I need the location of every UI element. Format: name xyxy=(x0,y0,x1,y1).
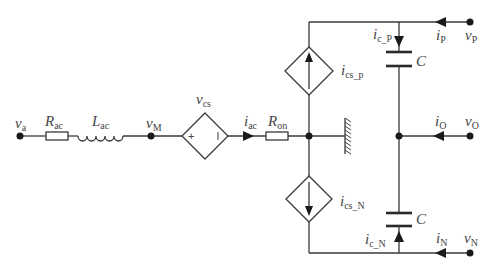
node-vm xyxy=(148,133,155,140)
current-arrow-ip xyxy=(435,17,446,27)
ground-hatch-icon xyxy=(345,118,351,154)
current-arrow-iac xyxy=(243,131,254,141)
current-arrow-icp xyxy=(394,36,404,47)
label-vn: vN xyxy=(464,230,478,248)
node-vp xyxy=(467,19,474,26)
node-va xyxy=(17,133,24,140)
label-in: iN xyxy=(436,230,447,248)
plus-sign: + xyxy=(188,130,194,142)
label-c-top: C xyxy=(416,53,427,69)
schematic-canvas: + va xyxy=(0,0,494,269)
label-ics-p: ics_p xyxy=(341,62,364,80)
label-ron: Ron xyxy=(267,113,287,131)
label-vm: vM xyxy=(146,115,162,133)
node-center xyxy=(306,133,313,140)
label-ics-n: ics_N xyxy=(340,193,365,211)
current-arrow-icn xyxy=(394,231,404,242)
label-vcs: vcs xyxy=(196,91,211,109)
label-vp: vP xyxy=(465,27,478,45)
label-vo: vO xyxy=(465,113,479,131)
resistor-rac xyxy=(46,132,68,140)
label-iac: iac xyxy=(244,113,258,131)
resistor-ron xyxy=(266,132,288,140)
current-arrow-io xyxy=(433,131,444,141)
label-c-bottom: C xyxy=(416,211,427,227)
current-arrow-in xyxy=(435,248,446,258)
label-va: va xyxy=(15,115,27,133)
node-vo xyxy=(467,133,474,140)
label-rac: Rac xyxy=(44,113,64,131)
label-lac: Lac xyxy=(91,113,110,131)
node-vn xyxy=(467,250,474,257)
label-icp: ic_P xyxy=(373,26,393,44)
circuit-diagram: + va xyxy=(0,0,494,269)
inductor-lac xyxy=(78,136,123,141)
label-io: iO xyxy=(435,113,446,131)
label-icn: ic_N xyxy=(365,231,386,249)
node-cap-mid xyxy=(396,133,403,140)
label-ip: iP xyxy=(436,27,446,45)
